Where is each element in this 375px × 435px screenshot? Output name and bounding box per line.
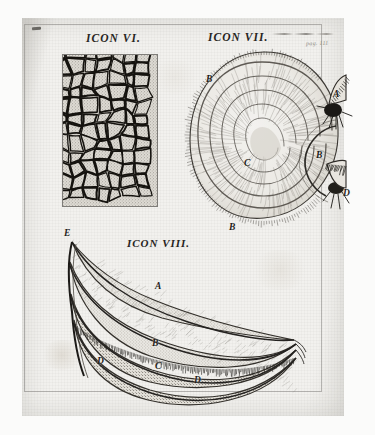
figure-icon-vii: A B B B C D <box>186 48 346 238</box>
figure-key-b: B <box>229 222 235 232</box>
top-rule-mark <box>272 33 334 35</box>
figure-key-e: E <box>64 228 70 238</box>
figure-key-c: C <box>155 361 161 371</box>
figure-key-d: D <box>97 356 104 366</box>
figure-icon-vi <box>62 54 158 207</box>
engraving-plate: ICON VI. ICON VII. ICON VIII. pag. 111 <box>0 0 375 435</box>
figure-key-a: A <box>333 89 339 99</box>
figure-caption-icon-vii: ICON VII. <box>208 31 268 43</box>
figure-key-b: B <box>152 338 158 348</box>
figure-key-c: C <box>244 158 250 168</box>
reticulated-cell-texture <box>63 55 157 206</box>
layered-lamina-drawing <box>58 236 308 404</box>
page-number-note: pag. 111 <box>306 40 329 46</box>
figure-key-d: D <box>194 375 201 385</box>
figure-caption-icon-vi: ICON VI. <box>86 32 141 44</box>
figure-key-a: A <box>155 281 161 291</box>
figure-key-d: D <box>343 188 350 198</box>
figure-key-b: B <box>316 150 322 160</box>
figure-icon-viii: E A B C D D <box>58 236 308 404</box>
figure-key-b: B <box>206 74 212 84</box>
